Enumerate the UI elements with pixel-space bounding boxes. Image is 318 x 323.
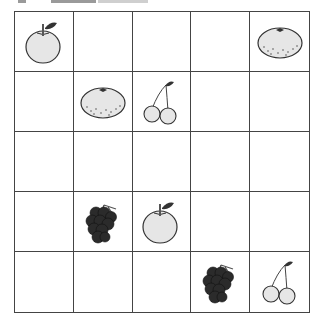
- mandarin-icon: [79, 85, 127, 119]
- mandarin-icon: [256, 25, 304, 59]
- grid-cell-r2-c4: [191, 72, 250, 132]
- grid-cell-r5-c1: [15, 252, 74, 312]
- grapes-icon: [82, 197, 124, 247]
- grid-cell-r2-c1: [15, 72, 74, 132]
- grid-cell-r4-c4: [191, 192, 250, 252]
- grid-cell-r2-c5: [250, 72, 309, 132]
- cherry-icon: [259, 259, 301, 305]
- apple-icon: [140, 199, 182, 245]
- grid-cell-r4-c3: apple: [133, 192, 192, 252]
- grid-cell-r1-c1: apple: [15, 12, 74, 72]
- grid-cell-r3-c5: [250, 132, 309, 192]
- grid-cell-r3-c2: [74, 132, 133, 192]
- grid-cell-r2-c3: cherries: [133, 72, 192, 132]
- fruit-grid: apple mandarin orange mandarin orange ch…: [14, 11, 310, 313]
- cropped-header-text: [14, 0, 154, 5]
- grid-cell-r5-c5: cherries: [250, 252, 309, 312]
- grid-cell-r3-c1: [15, 132, 74, 192]
- grid-cell-r3-c4: [191, 132, 250, 192]
- cherry-icon: [140, 79, 182, 125]
- apple-icon: [23, 19, 65, 65]
- grid-cell-r1-c5: mandarin orange: [250, 12, 309, 72]
- grid-cell-r5-c4: grapes: [191, 252, 250, 312]
- grapes-icon: [199, 257, 241, 307]
- grid-cell-r4-c2: grapes: [74, 192, 133, 252]
- grid-cell-r4-c5: [250, 192, 309, 252]
- grid-cell-r1-c3: [133, 12, 192, 72]
- grid-cell-r3-c3: [133, 132, 192, 192]
- grid-cell-r5-c2: [74, 252, 133, 312]
- grid-cell-r2-c2: mandarin orange: [74, 72, 133, 132]
- grid-cell-r1-c4: [191, 12, 250, 72]
- grid-cell-r4-c1: [15, 192, 74, 252]
- grid-cell-r5-c3: [133, 252, 192, 312]
- grid-cell-r1-c2: [74, 12, 133, 72]
